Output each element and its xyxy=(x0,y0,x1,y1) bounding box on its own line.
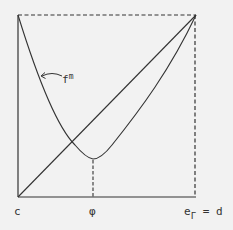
curve-fm xyxy=(18,15,196,159)
axis-label-equals-d: = d xyxy=(203,205,223,218)
diagram-canvas xyxy=(0,0,233,230)
axis-label-c: c xyxy=(14,206,21,217)
curve-label-fm: fm xyxy=(62,74,73,85)
curve-label-base: f xyxy=(62,73,69,86)
axis-label-phi: φ xyxy=(89,206,96,217)
label-arrow xyxy=(42,74,62,77)
axis-label-gamma-subscript: Γ xyxy=(191,211,196,221)
diagonal-line xyxy=(18,15,196,197)
curve-label-superscript: m xyxy=(69,72,74,81)
axis-label-right: eΓ = d xyxy=(184,206,223,217)
axis-label-e: e xyxy=(184,205,191,218)
